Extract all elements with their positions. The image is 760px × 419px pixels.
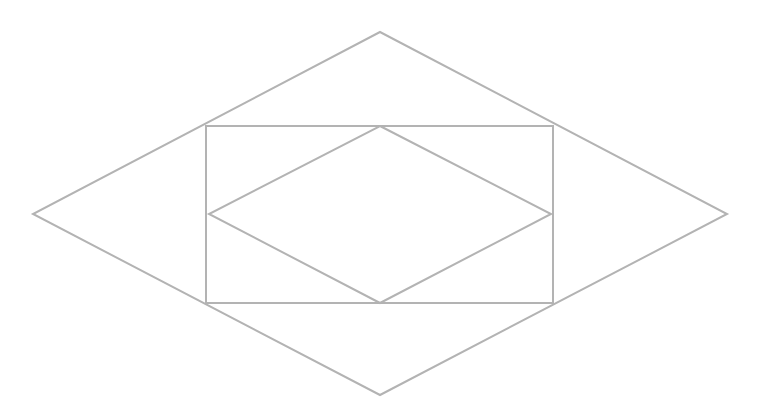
inner-rhombus [209, 126, 551, 303]
outer-rhombus [33, 32, 727, 395]
inscribed-rectangle [206, 126, 553, 303]
geometric-figure [0, 0, 760, 419]
diagram-canvas [0, 0, 760, 419]
